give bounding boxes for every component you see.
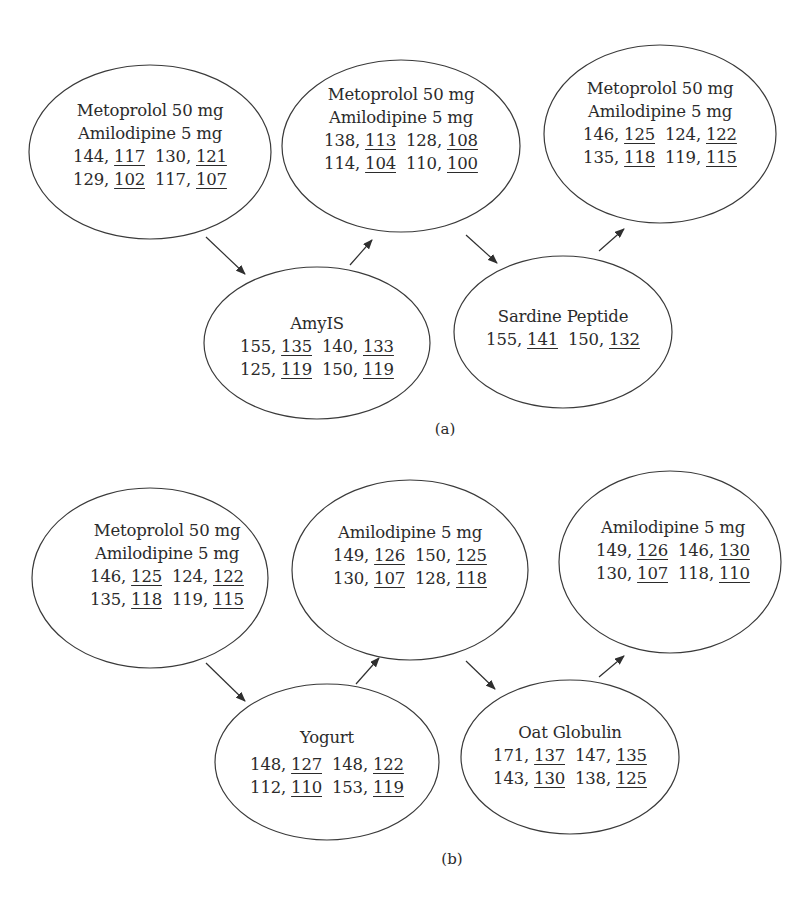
bp-row: 114, 104110, 100 bbox=[324, 152, 478, 175]
bp-value: 135, bbox=[583, 148, 619, 167]
node-title: Sardine Peptide bbox=[498, 305, 628, 328]
node-title: Metoprolol 50 mg bbox=[77, 99, 224, 122]
bp-value-underlined: 122 bbox=[706, 125, 737, 144]
bp-value-underlined: 141 bbox=[527, 330, 558, 349]
arrow-up-icon bbox=[356, 658, 379, 684]
bp-row: 129, 102117, 107 bbox=[73, 168, 227, 191]
bp-value-underlined: 121 bbox=[196, 147, 227, 166]
panel-label-b: (b) bbox=[441, 850, 462, 868]
bp-value-underlined: 102 bbox=[114, 170, 145, 189]
bp-value-underlined: 108 bbox=[447, 131, 478, 150]
bp-value-underlined: 135 bbox=[281, 337, 312, 356]
bp-value: 117, bbox=[155, 170, 191, 189]
arrow-down-icon bbox=[206, 237, 245, 274]
bp-value-underlined: 115 bbox=[213, 590, 244, 609]
bp-value: 130, bbox=[333, 569, 369, 588]
bp-value: 150, bbox=[322, 360, 358, 379]
bp-value: 125, bbox=[240, 360, 276, 379]
bp-value: 155, bbox=[486, 330, 522, 349]
bp-value-underlined: 125 bbox=[456, 546, 487, 565]
node-title: Amilodipine 5 mg bbox=[338, 521, 482, 544]
bp-value-underlined: 107 bbox=[637, 564, 668, 583]
bp-value: 148, bbox=[250, 755, 286, 774]
bp-value-underlined: 119 bbox=[373, 778, 404, 797]
arrow-down-icon bbox=[466, 661, 495, 689]
bp-value: 171, bbox=[493, 746, 529, 765]
panel-label-a: (a) bbox=[435, 420, 456, 438]
bp-value: 138, bbox=[575, 769, 611, 788]
node-title: Amilodipine 5 mg bbox=[329, 106, 473, 129]
bp-row: 112, 110153, 119 bbox=[250, 776, 404, 799]
node-b1-metoprolol-amilodipine: Metoprolol 50 mg Amilodipine 5 mg 146, 1… bbox=[57, 500, 277, 630]
bp-value: 124, bbox=[665, 125, 701, 144]
node-b2-amilodipine: Amilodipine 5 mg 149, 126150, 125 130, 1… bbox=[300, 510, 520, 600]
bp-value: 130, bbox=[155, 147, 191, 166]
bp-value-underlined: 110 bbox=[719, 564, 750, 583]
bp-row: 148, 127148, 122 bbox=[250, 753, 404, 776]
node-a2-metoprolol-amilodipine: Metoprolol 50 mg Amilodipine 5 mg 138, 1… bbox=[291, 64, 511, 194]
bp-value: 128, bbox=[415, 569, 451, 588]
bp-row: 146, 125124, 122 bbox=[583, 123, 737, 146]
bp-value: 146, bbox=[90, 567, 126, 586]
bp-value: 129, bbox=[73, 170, 109, 189]
bp-value-underlined: 107 bbox=[374, 569, 405, 588]
bp-value: 155, bbox=[240, 337, 276, 356]
bp-value: 146, bbox=[583, 125, 619, 144]
bp-value-underlined: 115 bbox=[706, 148, 737, 167]
bp-value-underlined: 104 bbox=[365, 154, 396, 173]
node-title: Amilodipine 5 mg bbox=[588, 100, 732, 123]
node-b-yogurt: Yogurt 148, 127148, 122 112, 110153, 119 bbox=[217, 715, 437, 810]
bp-value-underlined: 130 bbox=[534, 769, 565, 788]
bp-value-underlined: 110 bbox=[291, 778, 322, 797]
node-a3-metoprolol-amilodipine: Metoprolol 50 mg Amilodipine 5 mg 146, 1… bbox=[550, 58, 770, 188]
bp-value: 148, bbox=[332, 755, 368, 774]
bp-value: 112, bbox=[250, 778, 286, 797]
bp-value: 150, bbox=[568, 330, 604, 349]
bp-value: 149, bbox=[333, 546, 369, 565]
bp-row: 149, 126150, 125 bbox=[333, 544, 487, 567]
node-a1-metoprolol-amilodipine: Metoprolol 50 mg Amilodipine 5 mg 144, 1… bbox=[40, 80, 260, 210]
bp-row: 171, 137147, 135 bbox=[493, 744, 647, 767]
bp-value: 144, bbox=[73, 147, 109, 166]
bp-value-underlined: 119 bbox=[281, 360, 312, 379]
bp-value-underlined: 122 bbox=[373, 755, 404, 774]
bp-value: 110, bbox=[406, 154, 442, 173]
bp-value-underlined: 100 bbox=[447, 154, 478, 173]
bp-value: 150, bbox=[415, 546, 451, 565]
bp-value-underlined: 125 bbox=[624, 125, 655, 144]
bp-row: 146, 125124, 122 bbox=[90, 565, 244, 588]
bp-value-underlined: 117 bbox=[114, 147, 145, 166]
node-title: Metoprolol 50 mg bbox=[587, 77, 734, 100]
node-title: Metoprolol 50 mg bbox=[328, 83, 475, 106]
bp-value-underlined: 122 bbox=[213, 567, 244, 586]
bp-value: 128, bbox=[406, 131, 442, 150]
bp-value-underlined: 125 bbox=[616, 769, 647, 788]
bp-value: 135, bbox=[90, 590, 126, 609]
node-title: Amilodipine 5 mg bbox=[78, 122, 222, 145]
arrow-up-icon bbox=[599, 656, 624, 677]
bp-value: 147, bbox=[575, 746, 611, 765]
bp-value-underlined: 133 bbox=[363, 337, 394, 356]
node-title: Amilodipine 5 mg bbox=[95, 542, 239, 565]
node-b-oat-globulin: Oat Globulin 171, 137147, 135 143, 13013… bbox=[460, 710, 680, 800]
node-title: AmyIS bbox=[290, 312, 344, 335]
bp-value: 146, bbox=[678, 541, 714, 560]
bp-value-underlined: 127 bbox=[291, 755, 322, 774]
arrow-down-icon bbox=[206, 663, 245, 701]
bp-value-underlined: 137 bbox=[534, 746, 565, 765]
bp-value-underlined: 113 bbox=[365, 131, 396, 150]
bp-value-underlined: 125 bbox=[131, 567, 162, 586]
bp-value-underlined: 118 bbox=[624, 148, 655, 167]
bp-value: 118, bbox=[678, 564, 714, 583]
bp-value: 138, bbox=[324, 131, 360, 150]
bp-value: 153, bbox=[332, 778, 368, 797]
bp-value-underlined: 135 bbox=[616, 746, 647, 765]
bp-row: 135, 118119, 115 bbox=[90, 588, 244, 611]
bp-value-underlined: 119 bbox=[363, 360, 394, 379]
bp-value: 114, bbox=[324, 154, 360, 173]
node-title: Oat Globulin bbox=[518, 721, 622, 744]
bp-row: 138, 113128, 108 bbox=[324, 129, 478, 152]
bp-row: 130, 107118, 110 bbox=[596, 562, 750, 585]
arrow-up-icon bbox=[599, 229, 624, 251]
node-title: Amilodipine 5 mg bbox=[601, 516, 745, 539]
